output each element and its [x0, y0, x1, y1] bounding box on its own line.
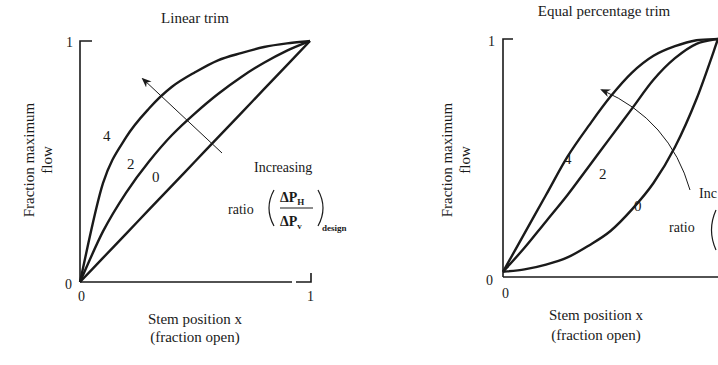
y-axis [503, 39, 513, 277]
chart-title: Linear trim [161, 10, 229, 26]
chart-title: Equal percentage trim [538, 3, 671, 19]
ratio-annotation: Increasing ratio ΔPH ΔPv design [228, 160, 347, 233]
y-tick-0: 0 [65, 277, 72, 292]
svg-text:ΔPH: ΔPH [280, 190, 304, 207]
increasing-arrow [143, 79, 222, 153]
curve-ratio-4 [503, 39, 718, 272]
x-axis [80, 273, 311, 282]
y-axis-label: Fraction maximum flow [439, 102, 473, 217]
x-axis-label: Stem position x (fraction open) [549, 307, 644, 344]
svg-text:flow: flow [457, 146, 473, 174]
curves [503, 39, 718, 272]
svg-text:flow: flow [39, 146, 55, 174]
svg-text:Inc: Inc [699, 186, 717, 201]
curve-label-0: 0 [634, 198, 642, 214]
equal-percentage-trim-chart: Equal percentage trim 1 0 0 Fraction max… [439, 3, 718, 344]
svg-text:(fraction open): (fraction open) [150, 329, 240, 346]
x-axis-label: Stem position x (fraction open) [148, 311, 243, 346]
svg-text:Stem position x: Stem position x [148, 311, 243, 327]
curve-label-0: 0 [152, 169, 160, 185]
svg-text:ratio: ratio [228, 202, 254, 217]
ratio-annotation: Inc ratio [669, 186, 717, 250]
svg-text:(fraction open): (fraction open) [551, 327, 641, 344]
curve-label-4: 4 [564, 151, 572, 167]
y-axis [80, 41, 92, 282]
svg-text:design: design [322, 223, 347, 233]
linear-trim-chart: Linear trim 1 0 0 1 Fraction maximum flo… [21, 10, 347, 346]
x-tick-0: 0 [78, 289, 85, 304]
y-tick-0: 0 [486, 273, 493, 288]
curve-label-4: 4 [103, 128, 111, 144]
svg-text:Fraction maximum: Fraction maximum [21, 102, 37, 217]
y-axis-label: Fraction maximum flow [21, 102, 55, 217]
y-tick-1: 1 [66, 35, 73, 50]
svg-text:Increasing: Increasing [254, 160, 312, 175]
increasing-arrow [602, 90, 690, 190]
curve-label-2: 2 [599, 166, 607, 182]
valve-characteristics-figure: Linear trim 1 0 0 1 Fraction maximum flo… [0, 0, 718, 365]
svg-text:ΔPv: ΔPv [280, 214, 302, 231]
svg-text:Stem position x: Stem position x [549, 307, 644, 323]
curve-label-2: 2 [127, 156, 135, 172]
curve-ratio-0 [503, 39, 718, 272]
svg-text:Fraction maximum: Fraction maximum [439, 102, 455, 217]
curve-ratio-2 [503, 39, 718, 272]
svg-text:ratio: ratio [669, 220, 695, 235]
y-tick-1: 1 [488, 34, 495, 49]
x-tick-0: 0 [502, 286, 509, 301]
x-tick-1: 1 [307, 289, 314, 304]
